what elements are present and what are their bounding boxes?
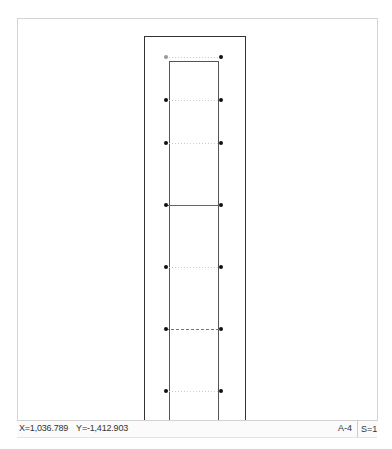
inner-rectangle[interactable]: [170, 62, 219, 422]
control-point-right[interactable]: [219, 327, 223, 331]
drawing-svg[interactable]: [18, 19, 377, 421]
sheet-size[interactable]: A-4: [338, 423, 352, 433]
control-point-right[interactable]: [219, 389, 223, 393]
drawing-canvas[interactable]: [17, 18, 378, 421]
y-coordinate: Y=-1,412.903: [76, 423, 128, 433]
cursor-coordinates: X=1,036.789Y=-1,412.903: [19, 423, 136, 433]
control-point-left[interactable]: [164, 389, 168, 393]
control-point-left[interactable]: [164, 98, 168, 102]
control-point-left[interactable]: [164, 141, 168, 145]
control-point-left[interactable]: [164, 203, 168, 207]
outer-rectangle[interactable]: [145, 37, 246, 422]
status-bar: X=1,036.789Y=-1,412.903 A-4 S=1: [17, 420, 377, 438]
control-point-left[interactable]: [164, 55, 168, 59]
x-coordinate: X=1,036.789: [19, 423, 68, 433]
control-point-left[interactable]: [164, 327, 168, 331]
scale-indicator[interactable]: S=1: [357, 421, 377, 437]
control-point-right[interactable]: [219, 98, 223, 102]
control-point-right[interactable]: [219, 265, 223, 269]
control-point-right[interactable]: [219, 203, 223, 207]
control-point-right[interactable]: [219, 55, 223, 59]
control-point-right[interactable]: [219, 141, 223, 145]
control-point-left[interactable]: [164, 265, 168, 269]
